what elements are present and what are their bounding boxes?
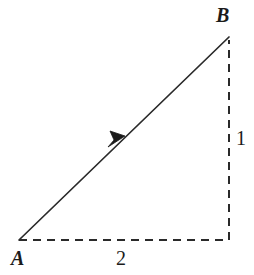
- vector-diagram-figure: A B 1 2: [0, 0, 254, 275]
- length-label-horizontal: 2: [116, 248, 126, 268]
- triangle-diagram-canvas: [0, 0, 254, 275]
- length-label-vertical: 1: [236, 128, 246, 148]
- vertex-label-a: A: [11, 248, 24, 268]
- hypotenuse-vector-line: [19, 37, 229, 240]
- vertex-label-b: B: [216, 5, 229, 25]
